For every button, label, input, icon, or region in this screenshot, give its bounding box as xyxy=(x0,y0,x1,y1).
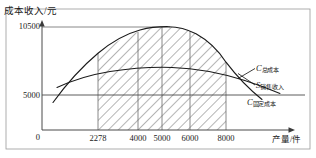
cost-revenue-chart: 成本收入/元 产量/件 10500 5000 0 2278 4000 5000 … xyxy=(0,0,316,158)
curve-label-fixed-cost-subscript: 固定成本 xyxy=(253,101,276,107)
y-tick-label-5000: 5000 xyxy=(6,91,40,100)
y-axis-title: 成本收入/元 xyxy=(4,7,57,17)
y-axis-arrow xyxy=(39,20,44,27)
x-axis-title: 产量/件 xyxy=(272,135,301,144)
y-tick-label-10500: 10500 xyxy=(6,22,40,31)
curve-label-total-cost-subscript: 总成本 xyxy=(262,67,279,73)
x-axis-arrow xyxy=(289,127,296,132)
x-tick-label-8000: 8000 xyxy=(210,134,242,143)
curve-label-fixed-cost: C固定成本 xyxy=(247,98,276,107)
curve-label-total-cost: C总成本 xyxy=(256,64,279,73)
curve-label-sales-revenue: S销售收入 xyxy=(256,81,283,90)
x-tick-label-6000: 6000 xyxy=(174,134,206,143)
x-tick-label-2278: 2278 xyxy=(82,134,114,143)
curve-label-sales-revenue-subscript: 销售收入 xyxy=(260,84,283,90)
y-tick-label-0: 0 xyxy=(6,133,40,142)
